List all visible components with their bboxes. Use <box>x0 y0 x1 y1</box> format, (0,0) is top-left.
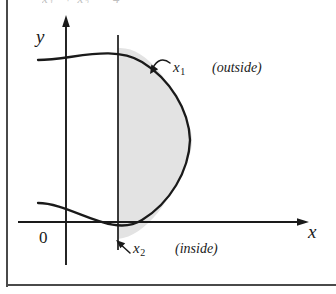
x1-annotation-arrow <box>153 60 170 68</box>
x1-qualifier-label: (outside) <box>212 60 262 76</box>
x2-symbol: x <box>133 240 140 256</box>
plot-canvas <box>0 0 336 294</box>
x1-symbol: x <box>173 59 180 75</box>
y-axis-arrowhead <box>62 15 70 27</box>
x1-label: x1 <box>173 59 185 77</box>
x2-label: x2 <box>133 240 145 258</box>
y-axis-label: y <box>36 26 44 48</box>
figure-container: x₁² + x₂² = 4 y x 0 x1 (outside) x2 (ins… <box>0 0 336 294</box>
x1-subscript: 1 <box>180 66 186 77</box>
origin-label: 0 <box>39 228 48 248</box>
x2-qualifier-label: (inside) <box>175 241 218 257</box>
x-axis-label: x <box>308 221 316 243</box>
x2-subscript: 2 <box>140 247 146 258</box>
